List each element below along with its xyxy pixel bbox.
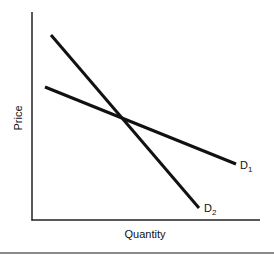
d2-label-base: D <box>204 202 212 214</box>
demand-curves-diagram: Price Quantity D1 D2 <box>0 0 274 255</box>
d2-label-subscript: 2 <box>212 208 216 217</box>
x-axis-label: Quantity <box>125 229 166 240</box>
d1-label-subscript: 1 <box>248 165 252 174</box>
bottom-divider <box>0 252 274 254</box>
demand-curve-d2 <box>51 35 199 208</box>
plot-area <box>0 0 274 255</box>
y-axis-label: Price <box>13 105 24 130</box>
d1-label-base: D <box>240 159 248 171</box>
d2-label: D2 <box>204 203 216 217</box>
d1-label: D1 <box>240 160 252 174</box>
demand-curve-d1 <box>45 87 236 164</box>
